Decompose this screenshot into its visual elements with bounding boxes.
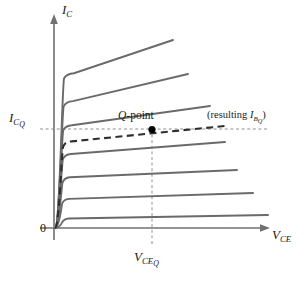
plot-canvas	[0, 0, 307, 282]
q-point-marker	[148, 126, 155, 133]
origin-label: 0	[40, 222, 46, 234]
ib-curve-5	[55, 106, 210, 228]
vceq-subscript: CE	[142, 256, 153, 266]
resulting-subscript2: Q	[258, 117, 263, 124]
y-axis-label-subscript: C	[66, 9, 72, 19]
x-axis-label-subscript: CE	[280, 234, 291, 244]
transistor-characteristic-figure: IC VCE ICQ VCEQ 0 Q-point (resulting IBQ…	[0, 0, 307, 282]
icq-tick-label: ICQ	[9, 111, 25, 124]
y-axis	[50, 14, 58, 240]
ib-curve-4	[55, 142, 225, 228]
x-axis	[40, 224, 270, 232]
q-point-label: Q-point	[118, 110, 154, 122]
vceq-symbol: V	[134, 249, 142, 264]
ib-curve-2	[55, 193, 253, 228]
vceq-tick-label: VCEQ	[134, 250, 159, 263]
y-axis-label: IC	[62, 3, 72, 16]
x-axis-label: VCE	[272, 228, 291, 241]
x-axis-label-symbol: V	[272, 227, 280, 242]
q-point-label-rest: -point	[126, 109, 153, 121]
ib-curve-1	[55, 215, 268, 228]
vceq-subscript2: Q	[153, 259, 159, 268]
resulting-close-paren: )	[262, 109, 266, 120]
resulting-ibq-label: (resulting IBQ)	[207, 110, 266, 121]
resulting-open-paren: (resulting	[207, 109, 250, 120]
characteristic-curves	[55, 40, 268, 228]
icq-subscript2: Q	[19, 120, 25, 129]
